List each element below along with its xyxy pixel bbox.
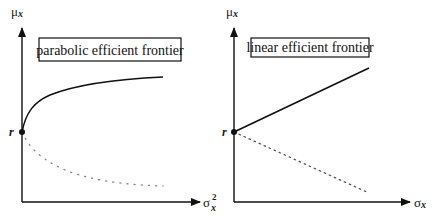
x-axis-superscript: 2: [212, 192, 217, 202]
inefficient-frontier-line: [234, 132, 369, 193]
y-axis-label: μx: [11, 4, 23, 19]
inefficient-frontier-curve: [22, 132, 163, 186]
risk-free-label: r: [222, 125, 227, 139]
y-axis-label: μx: [226, 4, 238, 19]
panel-title: parabolic efficient frontier: [36, 43, 184, 58]
x-axis-subscript: x: [210, 202, 216, 213]
risk-free-point: [231, 129, 237, 135]
x-axis-label: σx: [414, 195, 426, 210]
risk-free-point: [19, 129, 25, 135]
efficient-frontier-line: [234, 68, 369, 132]
linear-frontier-panel: μx σx linear efficient frontier r: [222, 4, 426, 210]
efficient-frontier-diagram: μx σ 2 x parabolic efficient frontier r …: [0, 0, 435, 224]
risk-free-label: r: [9, 125, 14, 139]
parabolic-frontier-panel: μx σ 2 x parabolic efficient frontier r: [9, 4, 217, 213]
efficient-frontier-curve: [22, 77, 163, 132]
panel-title: linear efficient frontier: [246, 40, 374, 55]
x-axis-label: σ: [203, 195, 210, 210]
